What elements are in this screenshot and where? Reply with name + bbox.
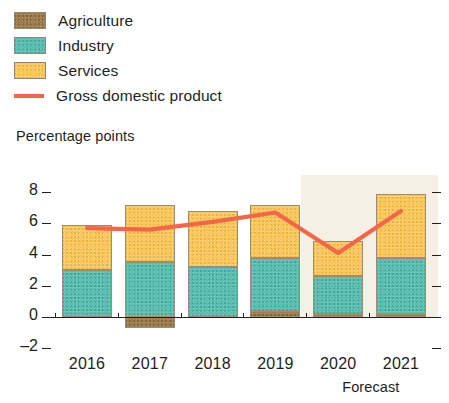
plot-area: 86420–2201620172018201920202021Forecast [0, 0, 449, 403]
x-axis-label-2018: 2018 [183, 355, 243, 373]
bar-segment-agriculture [125, 317, 175, 328]
y-axis-tick-mark-right [432, 255, 441, 256]
bar-segment-industry [250, 258, 300, 311]
bar-segment-industry [62, 270, 112, 317]
y-axis-tick-mark [42, 255, 51, 256]
bar-segment-industry [313, 276, 363, 313]
forecast-annotation-label: Forecast [342, 379, 399, 395]
bar-2017 [125, 0, 175, 403]
x-axis-tick-mark [118, 313, 119, 318]
bar-2021 [376, 0, 426, 403]
x-axis-label-2016: 2016 [57, 355, 117, 373]
y-axis-tick-label: 6 [4, 212, 38, 230]
x-axis-tick-mark [243, 313, 244, 318]
y-axis-tick-label: 0 [4, 306, 38, 324]
y-axis-tick-mark-right [432, 223, 441, 224]
x-axis-label-2020: 2020 [308, 355, 368, 373]
x-axis-label-2021: 2021 [371, 355, 431, 373]
bar-segment-industry [376, 258, 426, 314]
bar-segment-services [125, 205, 175, 263]
y-axis-tick-mark [42, 192, 51, 193]
bar-chart: Agriculture Industry Services Gross dome… [0, 0, 449, 403]
bar-2016 [62, 0, 112, 403]
bar-segment-services [188, 211, 238, 267]
bar-segment-industry [188, 267, 238, 317]
bar-segment-services [376, 194, 426, 258]
x-axis-label-2017: 2017 [120, 355, 180, 373]
y-axis-tick-mark [42, 286, 51, 287]
bar-segment-services [313, 241, 363, 277]
x-axis-tick-mark [306, 313, 307, 318]
y-axis-tick-mark-right [432, 192, 441, 193]
bar-segment-industry [125, 262, 175, 317]
y-axis-tick-mark-right [432, 348, 441, 349]
y-axis-tick-label: –2 [4, 337, 38, 355]
bar-segment-services [250, 205, 300, 258]
y-axis-tick-label: 2 [4, 275, 38, 293]
bar-2020 [313, 0, 363, 403]
y-axis-tick-label: 8 [4, 181, 38, 199]
x-axis-tick-mark [55, 313, 56, 318]
x-axis-tick-mark [369, 313, 370, 318]
bar-2019 [250, 0, 300, 403]
y-axis-tick-mark [42, 223, 51, 224]
y-axis-tick-label: 4 [4, 244, 38, 262]
bar-segment-services [62, 225, 112, 270]
x-axis-tick-mark [181, 313, 182, 318]
bar-2018 [188, 0, 238, 403]
y-axis-tick-mark-right [432, 286, 441, 287]
x-axis-label-2019: 2019 [245, 355, 305, 373]
y-axis-tick-mark [42, 348, 51, 349]
